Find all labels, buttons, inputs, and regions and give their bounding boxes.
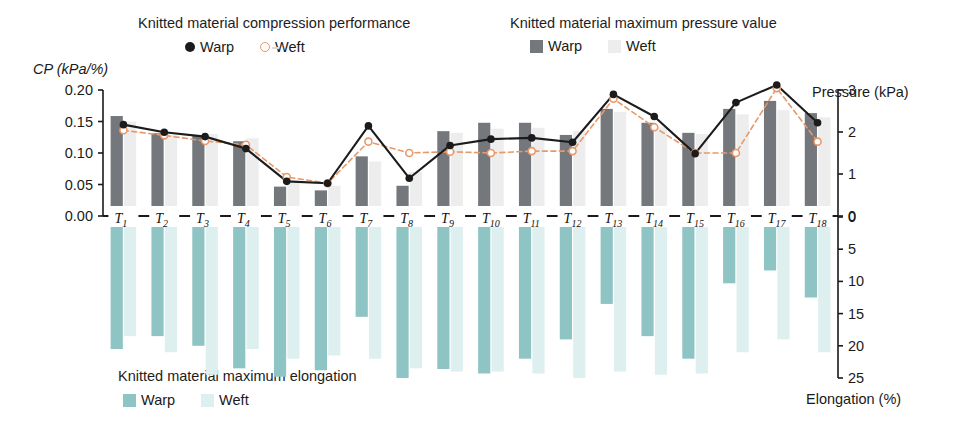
bar-elongation-weft bbox=[247, 217, 259, 349]
right-bottom-axis-tick-label: 0 bbox=[848, 209, 856, 225]
marker-warp-filled-circle bbox=[610, 91, 618, 99]
marker-weft-open-circle bbox=[569, 148, 576, 155]
bar-pressure-weft bbox=[124, 122, 136, 217]
marker-warp-filled-circle bbox=[242, 145, 250, 153]
bar-elongation-weft bbox=[410, 217, 422, 368]
bar-elongation-warp bbox=[682, 217, 694, 359]
bar-pressure-weft bbox=[165, 135, 177, 216]
bar-elongation-warp bbox=[437, 217, 449, 369]
bar-elongation-warp bbox=[233, 217, 245, 368]
marker-warp-filled-circle bbox=[446, 142, 454, 150]
marker-weft-open-circle bbox=[487, 150, 494, 157]
bar-elongation-weft bbox=[655, 217, 667, 375]
right-top-axis-tick-label: 3 bbox=[848, 82, 856, 98]
bar-pressure-warp bbox=[764, 101, 776, 216]
marker-warp-filled-circle bbox=[814, 119, 822, 127]
bar-pressure-weft bbox=[777, 110, 789, 216]
right-top-axis-tick-label: 1 bbox=[848, 166, 856, 182]
right-bottom-axis-tick-label: 5 bbox=[848, 241, 856, 257]
bar-elongation-warp bbox=[111, 217, 123, 349]
bar-elongation-warp bbox=[641, 217, 653, 336]
marker-warp-filled-circle bbox=[160, 128, 168, 136]
marker-warp-filled-circle bbox=[569, 138, 577, 146]
bar-pressure-warp bbox=[723, 109, 735, 216]
left-axis-tick-label: 0.10 bbox=[65, 145, 93, 161]
right-bottom-axis-tick-label: 25 bbox=[848, 370, 864, 386]
bar-pressure-warp bbox=[192, 136, 204, 216]
bar-elongation-warp bbox=[519, 217, 531, 359]
marker-warp-filled-circle bbox=[405, 174, 413, 182]
marker-warp-filled-circle bbox=[487, 135, 495, 143]
bar-elongation-warp bbox=[315, 217, 327, 370]
marker-warp-filled-circle bbox=[120, 121, 128, 129]
marker-weft-open-circle bbox=[732, 150, 739, 157]
right-bottom-axis-tick-label: 10 bbox=[848, 273, 864, 289]
right-top-axis-tick-label: 2 bbox=[848, 124, 856, 140]
marker-warp-filled-circle bbox=[324, 179, 332, 187]
bar-elongation-weft bbox=[696, 217, 708, 373]
bar-elongation-warp bbox=[192, 217, 204, 346]
left-axis-tick-label: 0.00 bbox=[65, 208, 93, 224]
bar-elongation-weft bbox=[818, 217, 830, 352]
bar-elongation-weft bbox=[328, 217, 340, 355]
category-labels-group: T1T2T3T4T5T6T7T8T9T10T11T12T13T14T15T16T… bbox=[108, 206, 832, 229]
left-axis-tick-label: 0.15 bbox=[65, 114, 93, 130]
bar-elongation-warp bbox=[601, 217, 613, 304]
bar-pressure-weft bbox=[655, 127, 667, 216]
bar-pressure-weft bbox=[614, 112, 626, 216]
marker-warp-filled-circle bbox=[650, 113, 658, 121]
marker-warp-filled-circle bbox=[528, 134, 536, 142]
marker-weft-open-circle bbox=[651, 124, 658, 131]
bar-elongation-warp bbox=[805, 217, 817, 298]
marker-warp-filled-circle bbox=[201, 133, 209, 141]
bar-elongation-warp bbox=[151, 217, 163, 336]
bar-elongation-warp bbox=[356, 217, 368, 317]
bar-pressure-weft bbox=[818, 117, 830, 216]
bar-pressure-warp bbox=[233, 141, 245, 216]
bar-elongation-weft bbox=[492, 217, 504, 372]
bar-pressure-warp bbox=[601, 109, 613, 216]
bar-pressure-warp bbox=[805, 113, 817, 216]
marker-weft-open-circle bbox=[406, 150, 413, 157]
bar-pressure-warp bbox=[641, 123, 653, 216]
bar-elongation-weft bbox=[287, 217, 299, 359]
bar-pressure-weft bbox=[737, 114, 749, 216]
bar-elongation-weft bbox=[614, 217, 626, 372]
marker-warp-filled-circle bbox=[732, 99, 740, 107]
marker-warp-filled-circle bbox=[365, 122, 373, 130]
bar-elongation-weft bbox=[165, 217, 177, 352]
elongation-bars-group bbox=[111, 217, 831, 378]
bar-elongation-weft bbox=[451, 217, 463, 372]
bar-pressure-warp bbox=[560, 135, 572, 216]
marker-warp-filled-circle bbox=[283, 178, 291, 186]
bar-elongation-warp bbox=[396, 217, 408, 378]
chart-figure: Knitted material compression performance… bbox=[0, 0, 955, 430]
plot-area: 0.200.150.100.050.0032100510152025T1T2T3… bbox=[0, 0, 955, 430]
bar-elongation-weft bbox=[532, 217, 544, 373]
left-axis-tick-label: 0.05 bbox=[65, 177, 93, 193]
bar-elongation-weft bbox=[124, 217, 136, 336]
right-bottom-axis-tick-label: 20 bbox=[848, 338, 864, 354]
bar-elongation-weft bbox=[737, 217, 749, 352]
line-warp bbox=[123, 85, 817, 183]
bar-pressure-warp bbox=[151, 133, 163, 216]
bar-elongation-warp bbox=[274, 217, 286, 377]
bar-elongation-weft bbox=[206, 217, 218, 375]
marker-weft-open-circle bbox=[814, 138, 821, 145]
bar-elongation-weft bbox=[777, 217, 789, 339]
bar-pressure-weft bbox=[532, 128, 544, 216]
marker-weft-open-circle bbox=[365, 138, 372, 145]
bar-elongation-weft bbox=[573, 217, 585, 378]
line-weft bbox=[123, 88, 817, 183]
bar-elongation-weft bbox=[369, 217, 381, 359]
compression-lines-group bbox=[120, 81, 822, 187]
right-bottom-axis-tick-label: 15 bbox=[848, 306, 864, 322]
marker-warp-filled-circle bbox=[691, 150, 699, 158]
bar-pressure-weft bbox=[206, 134, 218, 216]
bar-elongation-warp bbox=[560, 217, 572, 339]
left-axis-tick-label: 0.20 bbox=[65, 82, 93, 98]
marker-weft-open-circle bbox=[447, 148, 454, 155]
bar-elongation-warp bbox=[478, 217, 490, 373]
marker-warp-filled-circle bbox=[773, 81, 781, 89]
marker-weft-open-circle bbox=[528, 148, 535, 155]
